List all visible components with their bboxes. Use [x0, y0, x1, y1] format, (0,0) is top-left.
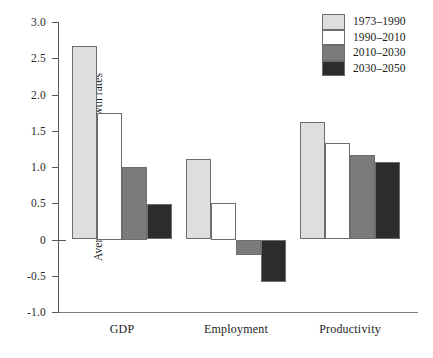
- bar: [325, 143, 350, 239]
- y-axis-tick-label: 2.0: [0, 89, 46, 101]
- legend: 1973–19901990–20102010–20302030–2050: [322, 14, 430, 76]
- x-axis-category-label: Productivity: [319, 322, 381, 337]
- legend-swatch: [322, 45, 345, 61]
- y-axis-tick: [52, 312, 59, 313]
- legend-label: 1973–1990: [353, 15, 406, 27]
- y-axis-tick-label: 2.5: [0, 52, 46, 64]
- legend-item: 2030–2050: [322, 61, 430, 77]
- bar: [72, 46, 97, 240]
- bar: [350, 155, 375, 239]
- bar: [236, 240, 261, 255]
- x-axis-spine: [58, 312, 418, 313]
- bar-chart: Average annual percentage growth rates 3…: [0, 0, 433, 358]
- legend-swatch: [322, 61, 345, 77]
- y-axis-tick-label: 1.0: [0, 161, 46, 173]
- legend-item: 1990–2010: [322, 30, 430, 46]
- legend-swatch: [322, 30, 345, 46]
- y-axis-tick-label: 0: [0, 234, 46, 246]
- bar: [261, 240, 286, 283]
- y-axis-tick-label: 1.5: [0, 125, 46, 137]
- legend-label: 1990–2010: [353, 31, 406, 43]
- bar: [122, 167, 147, 240]
- bar: [375, 162, 400, 240]
- legend-item: 2010–2030: [322, 45, 430, 61]
- legend-item: 1973–1990: [322, 14, 430, 30]
- x-axis-category-label: GDP: [110, 322, 135, 337]
- legend-label: 2030–2050: [353, 62, 406, 74]
- legend-label: 2010–2030: [353, 46, 406, 58]
- y-axis-tick-label: 0.5: [0, 197, 46, 209]
- legend-swatch: [322, 14, 345, 30]
- y-axis-tick-label: 3.0: [0, 16, 46, 28]
- y-axis-tick-label: -0.5: [0, 270, 46, 282]
- y-axis-tick-label: -1.0: [0, 306, 46, 318]
- bar: [300, 122, 325, 239]
- bar: [97, 113, 122, 240]
- bar: [186, 159, 211, 239]
- x-axis-category-label: Employment: [204, 322, 268, 337]
- bar: [211, 203, 236, 239]
- bar: [147, 204, 172, 240]
